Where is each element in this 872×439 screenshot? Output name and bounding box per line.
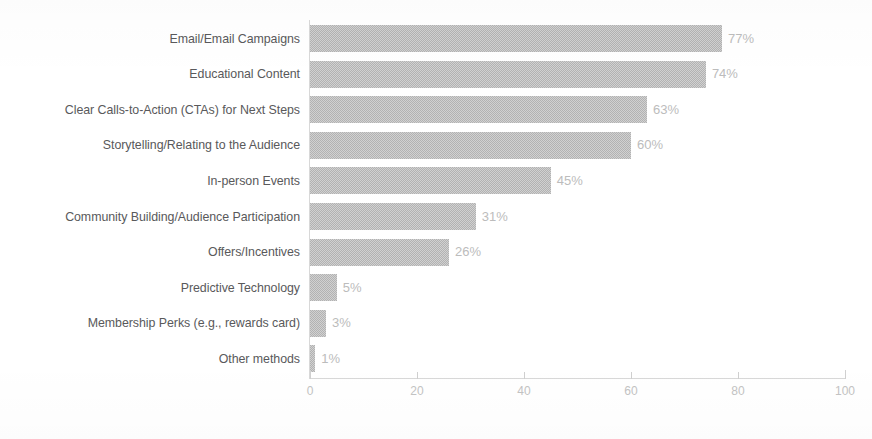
bar-value-label: 31% <box>482 210 508 223</box>
category-label: Email/Email Campaigns <box>170 33 300 45</box>
x-axis-tick-label: 80 <box>731 385 744 397</box>
bar <box>310 274 337 301</box>
x-axis-tick <box>738 372 739 379</box>
bar <box>310 25 722 52</box>
bar <box>310 239 449 266</box>
category-label: Community Building/Audience Participatio… <box>65 211 300 223</box>
x-axis-tick-label: 60 <box>624 385 637 397</box>
x-axis-tick-label: 100 <box>835 385 855 397</box>
bar-value-label: 77% <box>728 32 754 45</box>
bar <box>310 203 476 230</box>
x-axis-tick <box>631 372 632 379</box>
bar-value-label: 60% <box>637 138 663 151</box>
x-axis-tick-label: 0 <box>307 385 314 397</box>
x-axis-line <box>309 378 845 379</box>
x-axis-tick-label: 20 <box>410 385 423 397</box>
bar <box>310 61 706 88</box>
category-label: Offers/Incentives <box>208 246 300 258</box>
category-label: Membership Perks (e.g., rewards card) <box>88 317 300 329</box>
category-label: Storytelling/Relating to the Audience <box>103 139 300 151</box>
x-axis-tick <box>524 372 525 379</box>
bar-value-label: 3% <box>332 316 351 329</box>
bar <box>310 167 551 194</box>
category-label: Educational Content <box>189 68 300 80</box>
bar <box>310 96 647 123</box>
x-axis-tick-label: 40 <box>517 385 530 397</box>
category-label: Predictive Technology <box>181 282 300 294</box>
bar-chart: Email/Email CampaignsEducational Content… <box>0 0 872 439</box>
x-axis-tick <box>310 370 311 379</box>
bar-value-label: 63% <box>653 103 679 116</box>
bar <box>310 310 326 337</box>
bar-value-label: 5% <box>343 281 362 294</box>
bar <box>310 132 631 159</box>
category-label: Other methods <box>219 353 300 365</box>
bar <box>310 345 315 372</box>
bar-value-label: 45% <box>557 174 583 187</box>
category-label: In-person Events <box>207 175 300 187</box>
x-axis-tick <box>845 370 846 379</box>
bar-value-label: 1% <box>321 352 340 365</box>
bar-value-label: 74% <box>712 67 738 80</box>
category-label: Clear Calls-to-Action (CTAs) for Next St… <box>65 104 300 116</box>
bar-value-label: 26% <box>455 245 481 258</box>
x-axis-tick <box>417 372 418 379</box>
y-axis-line <box>309 20 310 378</box>
